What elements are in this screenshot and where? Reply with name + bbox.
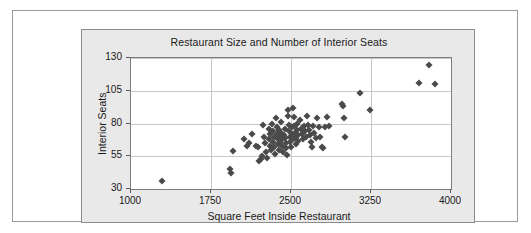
y-axis-tick <box>126 90 130 91</box>
y-axis-tick <box>126 123 130 124</box>
y-axis-tick <box>126 155 130 156</box>
y-axis-tick-label: 55 <box>88 150 122 160</box>
data-point <box>317 133 324 140</box>
x-axis-tick <box>210 189 211 193</box>
y-axis-tick-label: 80 <box>88 118 122 128</box>
y-axis-tick-label: 30 <box>88 183 122 193</box>
data-point <box>342 133 349 140</box>
data-point <box>248 130 255 137</box>
gridline-vertical <box>371 58 372 189</box>
plot-area <box>130 57 452 190</box>
x-axis-tick <box>370 189 371 193</box>
data-point <box>366 107 373 114</box>
data-point <box>341 115 348 122</box>
x-axis-tick <box>130 189 131 193</box>
data-point <box>283 151 290 158</box>
data-point <box>324 113 331 120</box>
gridline-vertical <box>211 58 212 189</box>
y-axis-tick <box>126 57 130 58</box>
x-axis-tick <box>290 189 291 193</box>
y-axis-tick-label: 105 <box>88 85 122 95</box>
screenshot-page: Restaurant Size and Number of Interior S… <box>0 0 531 233</box>
x-axis-tick <box>450 189 451 193</box>
x-axis-tick-label: 1000 <box>108 196 152 206</box>
data-point <box>309 144 316 151</box>
data-point <box>230 147 237 154</box>
x-axis-title: Square Feet Inside Restaurant <box>82 210 476 222</box>
chart-title: Restaurant Size and Number of Interior S… <box>82 36 476 48</box>
x-axis-tick-label: 3250 <box>348 196 392 206</box>
data-point <box>263 154 270 161</box>
data-point <box>319 145 326 152</box>
y-axis-tick-label: 130 <box>88 52 122 62</box>
data-point <box>431 81 438 88</box>
data-point <box>425 61 432 68</box>
data-point <box>340 103 347 110</box>
data-point <box>228 170 235 177</box>
data-point <box>415 79 422 86</box>
x-axis-tick-label: 2500 <box>268 196 312 206</box>
x-axis-tick-label: 4000 <box>428 196 472 206</box>
figure-outer-border: Restaurant Size and Number of Interior S… <box>12 10 518 222</box>
data-point <box>158 178 165 185</box>
data-point <box>314 115 321 122</box>
x-axis-tick-label: 1750 <box>188 196 232 206</box>
data-point <box>303 112 310 119</box>
chart-panel: Restaurant Size and Number of Interior S… <box>81 29 475 223</box>
